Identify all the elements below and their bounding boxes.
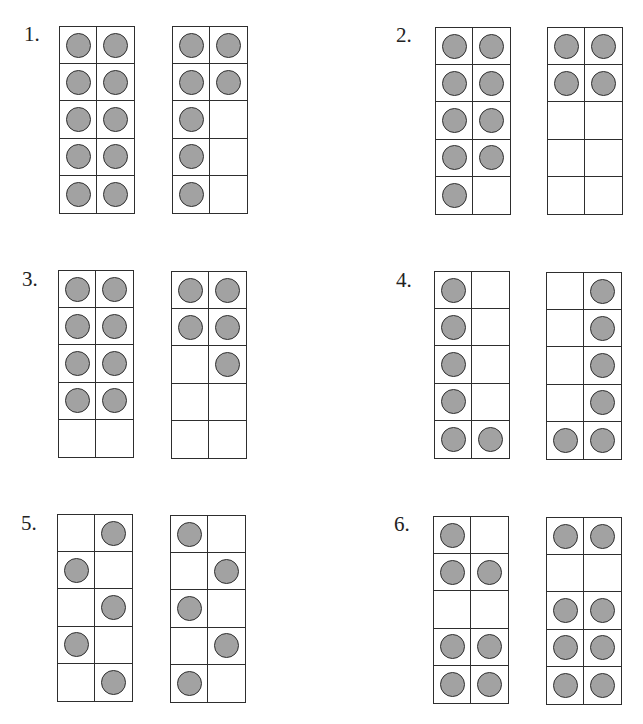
ten-frame-cell <box>173 101 210 138</box>
problem-number: 3. <box>22 269 38 290</box>
ten-frame-cell <box>472 346 509 383</box>
counter-dot-icon <box>65 277 90 302</box>
ten-frame-cell <box>171 590 208 627</box>
ten-frame-cell <box>585 140 622 177</box>
ten-frame-cell <box>547 592 584 629</box>
ten-frame-cell <box>58 552 95 589</box>
counter-dot-icon <box>214 559 239 584</box>
ten-frame-cell <box>96 383 133 420</box>
ten-frame-cell <box>59 383 96 420</box>
ten-frame-cell <box>547 518 584 555</box>
counter-dot-icon <box>590 428 615 453</box>
counter-dot-icon <box>179 182 204 207</box>
ten-frame-cell <box>172 272 209 309</box>
ten-frame-cell <box>173 176 210 213</box>
counter-dot-icon <box>554 71 579 96</box>
counter-dot-icon <box>103 144 128 169</box>
ten-frame-cell <box>434 666 471 703</box>
counter-dot-icon <box>179 70 204 95</box>
counter-dot-icon <box>442 183 467 208</box>
ten-frame-cell <box>472 421 509 458</box>
counter-dot-icon <box>65 314 90 339</box>
counter-dot-icon <box>179 144 204 169</box>
ten-frame-cell <box>173 64 210 101</box>
ten-frame-cell <box>96 308 133 345</box>
counter-dot-icon <box>441 352 466 377</box>
ten-frame-right <box>171 271 247 459</box>
ten-frame-cell <box>472 272 509 309</box>
ten-frame-cell <box>210 64 247 101</box>
ten-frame-cell <box>473 140 510 177</box>
counter-dot-icon <box>101 670 126 695</box>
counter-dot-icon <box>442 108 467 133</box>
ten-frame-cell <box>473 177 510 214</box>
ten-frame-cell <box>60 64 97 101</box>
counter-dot-icon <box>215 278 240 303</box>
problem-number: 5. <box>21 513 37 534</box>
counter-dot-icon <box>553 673 578 698</box>
counter-dot-icon <box>590 353 615 378</box>
ten-frame-cell <box>584 555 621 592</box>
counter-dot-icon <box>553 428 578 453</box>
counter-dot-icon <box>216 33 241 58</box>
counter-dot-icon <box>65 388 90 413</box>
ten-frame-cell <box>172 384 209 421</box>
counter-dot-icon <box>179 33 204 58</box>
counter-dot-icon <box>440 523 465 548</box>
ten-frame-cell <box>172 346 209 383</box>
ten-frame-cell <box>95 552 132 589</box>
problem-number: 1. <box>24 24 40 45</box>
ten-frame-cell <box>59 345 96 382</box>
ten-frame-cell <box>434 517 471 554</box>
counter-dot-icon <box>441 278 466 303</box>
ten-frame-cell <box>171 665 208 702</box>
counter-dot-icon <box>479 145 504 170</box>
ten-frame-cell <box>434 554 471 591</box>
ten-frame-cell <box>471 554 508 591</box>
counter-dot-icon <box>590 598 615 623</box>
counter-dot-icon <box>441 315 466 340</box>
ten-frame-cell <box>95 515 132 552</box>
counter-dot-icon <box>590 524 615 549</box>
ten-frame-cell <box>95 664 132 701</box>
ten-frame-cell <box>471 591 508 628</box>
ten-frame-left <box>433 516 509 704</box>
ten-frame-cell <box>548 102 585 139</box>
counter-dot-icon <box>479 34 504 59</box>
ten-frame-cell <box>60 139 97 176</box>
counter-dot-icon <box>177 522 202 547</box>
ten-frame-cell <box>436 177 473 214</box>
ten-frame-cell <box>171 553 208 590</box>
problem-number: 2. <box>396 25 412 46</box>
ten-frame-cell <box>584 310 621 347</box>
ten-frame-cell <box>547 667 584 704</box>
counter-dot-icon <box>103 70 128 95</box>
counter-dot-icon <box>101 595 126 620</box>
ten-frame-cell <box>436 28 473 65</box>
counter-dot-icon <box>590 279 615 304</box>
ten-frame-cell <box>435 421 472 458</box>
counter-dot-icon <box>179 107 204 132</box>
counter-dot-icon <box>102 351 127 376</box>
counter-dot-icon <box>591 34 616 59</box>
ten-frame-cell <box>95 589 132 626</box>
ten-frame-left <box>435 27 511 215</box>
counter-dot-icon <box>64 558 89 583</box>
ten-frame-cell <box>58 664 95 701</box>
ten-frame-cell <box>547 385 584 422</box>
ten-frame-right <box>172 26 248 214</box>
counter-dot-icon <box>442 34 467 59</box>
ten-frame-cell <box>59 420 96 457</box>
counter-dot-icon <box>553 635 578 660</box>
counter-dot-icon <box>177 671 202 696</box>
counter-dot-icon <box>66 107 91 132</box>
counter-dot-icon <box>441 427 466 452</box>
ten-frame-cell <box>60 176 97 213</box>
counter-dot-icon <box>103 33 128 58</box>
ten-frame-cell <box>472 309 509 346</box>
counter-dot-icon <box>590 316 615 341</box>
ten-frame-cell <box>210 27 247 64</box>
counter-dot-icon <box>554 34 579 59</box>
ten-frame-cell <box>95 627 132 664</box>
ten-frame-cell <box>209 384 246 421</box>
